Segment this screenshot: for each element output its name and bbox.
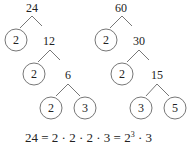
branch bbox=[56, 84, 68, 96]
branch bbox=[146, 84, 157, 96]
node-composite: 6 bbox=[65, 68, 71, 82]
branch bbox=[157, 84, 169, 96]
factor-tree-24: 24 2 12 2 6 2 3 bbox=[5, 1, 96, 119]
node-composite: 60 bbox=[115, 1, 127, 15]
node-composite: 30 bbox=[133, 34, 145, 48]
node-composite: 24 bbox=[26, 1, 38, 15]
node-prime: 3 bbox=[138, 101, 144, 115]
node-prime: 2 bbox=[48, 101, 54, 115]
branch bbox=[38, 50, 50, 62]
branch bbox=[68, 84, 80, 96]
branch bbox=[139, 50, 149, 60]
node-prime: 5 bbox=[172, 101, 178, 115]
node-prime: 3 bbox=[82, 101, 88, 115]
prime-factorization-equation: 24 = 2 · 2 · 2 · 3 = 23 · 3 bbox=[25, 130, 152, 146]
branch bbox=[50, 50, 60, 60]
branch bbox=[122, 16, 132, 26]
branch bbox=[127, 50, 139, 62]
node-composite: 15 bbox=[151, 68, 163, 82]
equation-main: 24 = 2 · 2 · 2 · 3 = 2 bbox=[25, 130, 131, 145]
node-prime: 2 bbox=[13, 33, 19, 47]
node-prime: 2 bbox=[103, 33, 109, 47]
branch bbox=[20, 16, 32, 28]
node-composite: 12 bbox=[43, 34, 55, 48]
node-prime: 2 bbox=[119, 67, 125, 81]
factor-tree-60: 60 2 30 2 15 3 5 bbox=[95, 1, 186, 119]
node-prime: 2 bbox=[31, 67, 37, 81]
branch bbox=[32, 16, 42, 26]
equation-tail: · 3 bbox=[135, 130, 152, 145]
branch bbox=[110, 16, 122, 28]
